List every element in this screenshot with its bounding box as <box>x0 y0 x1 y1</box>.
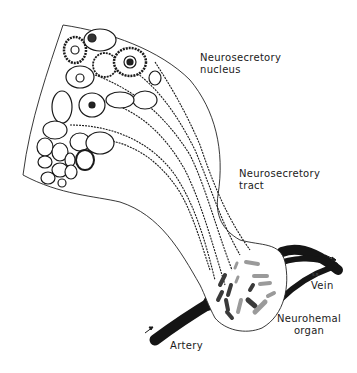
cell <box>133 91 157 109</box>
cell <box>38 156 52 168</box>
cell <box>52 91 72 123</box>
cell <box>149 71 161 85</box>
label-line: organ <box>277 325 341 337</box>
cell <box>106 92 134 108</box>
label-neurosecretory-nucleus: Neurosecretory nucleus <box>200 52 281 76</box>
cell <box>41 172 55 184</box>
cell <box>76 150 94 170</box>
label-artery: Artery <box>170 340 203 352</box>
cell <box>65 165 77 179</box>
cell <box>58 179 66 187</box>
label-line: Neurosecretory <box>239 168 320 180</box>
cell <box>37 138 53 156</box>
label-line: Neurohemal <box>277 313 341 325</box>
label-neurohemal-organ: Neurohemal organ <box>277 313 341 337</box>
label-vein: Vein <box>311 280 334 292</box>
label-line: nucleus <box>200 64 281 76</box>
cell <box>43 121 67 139</box>
label-neurosecretory-tract: Neurosecretory tract <box>239 168 320 192</box>
label-line: tract <box>239 180 320 192</box>
artist-signature: S.R. <box>312 272 320 277</box>
label-line: Neurosecretory <box>200 52 281 64</box>
